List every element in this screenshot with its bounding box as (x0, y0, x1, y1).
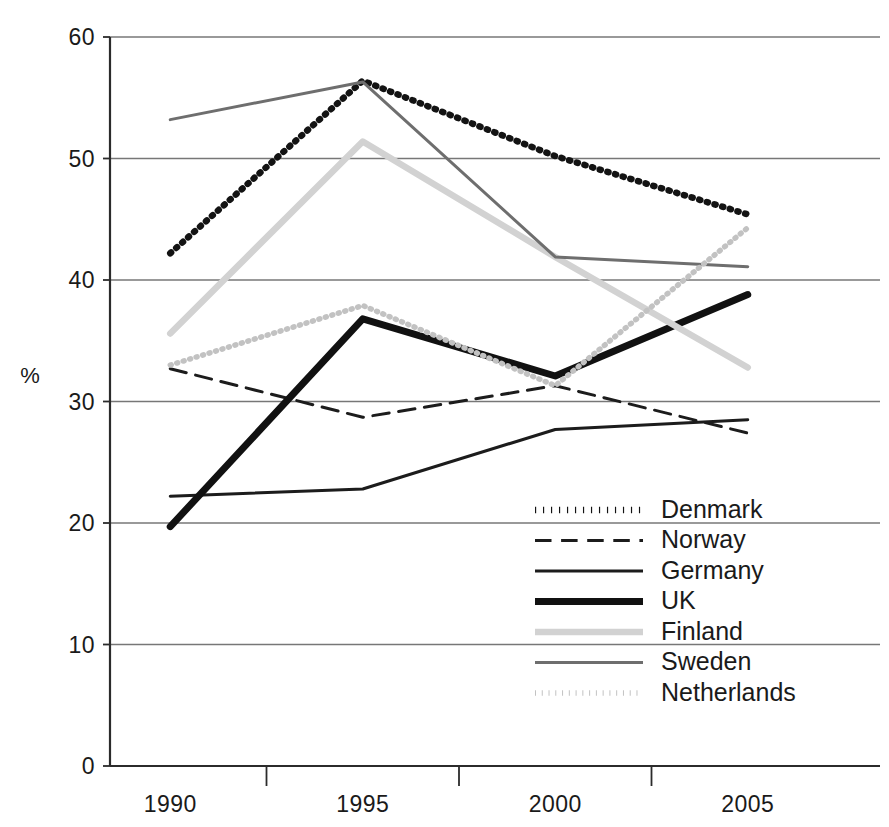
x-axis-tick-labels: 1990199520002005 (144, 791, 775, 817)
legend-label-norway: Norway (661, 525, 746, 553)
chart-canvas: 0102030405060 % 1990199520002005 Denmark… (0, 0, 889, 827)
line-chart: 0102030405060 % 1990199520002005 Denmark… (0, 0, 889, 827)
y-axis-tick-labels: 0102030405060 (68, 24, 110, 779)
y-tick-label-20: 20 (68, 510, 95, 536)
x-tick-label-1995: 1995 (336, 791, 389, 817)
x-tick-label-2000: 2000 (529, 791, 582, 817)
x-tick-label-2005: 2005 (721, 791, 774, 817)
chart-legend: DenmarkNorwayGermanyUKFinlandSwedenNethe… (535, 495, 796, 706)
gridlines (110, 37, 880, 645)
legend-label-sweden: Sweden (661, 647, 751, 675)
y-tick-label-40: 40 (68, 267, 95, 293)
y-tick-label-50: 50 (68, 146, 95, 172)
y-axis-title: % (20, 363, 40, 388)
y-tick-label-30: 30 (68, 389, 95, 415)
chart-page: 0102030405060 % 1990199520002005 Denmark… (0, 0, 889, 827)
x-axis-ticks (267, 766, 652, 786)
y-tick-label-60: 60 (68, 24, 95, 50)
y-tick-label-0: 0 (82, 753, 95, 779)
legend-label-finland: Finland (661, 617, 743, 645)
legend-label-uk: UK (661, 586, 696, 614)
series-line-denmark (170, 81, 748, 254)
y-tick-label-10: 10 (68, 632, 95, 658)
legend-label-netherlands: Netherlands (661, 678, 796, 706)
data-series-group (170, 81, 748, 527)
x-tick-label-1990: 1990 (144, 791, 197, 817)
legend-label-germany: Germany (661, 556, 764, 584)
legend-label-denmark: Denmark (661, 495, 763, 523)
